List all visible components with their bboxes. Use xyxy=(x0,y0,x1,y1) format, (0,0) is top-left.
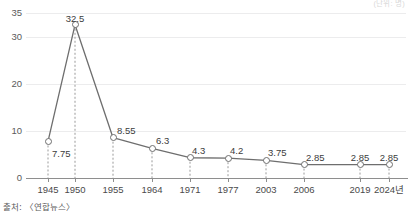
x-tick-label: 1964 xyxy=(141,185,162,195)
x-tick-mark xyxy=(360,178,361,182)
gridline xyxy=(26,37,406,38)
x-tick-mark xyxy=(75,178,76,182)
gridline xyxy=(26,131,406,132)
x-tick-mark xyxy=(304,178,305,182)
gridline xyxy=(26,84,406,85)
data-value-label: 2.85 xyxy=(380,153,399,163)
droplines xyxy=(0,0,411,190)
data-point-marker[interactable] xyxy=(149,145,156,152)
x-tick-label: 1977 xyxy=(217,185,238,195)
data-value-label: 3.75 xyxy=(268,148,287,158)
data-value-label: 2.85 xyxy=(351,153,370,163)
series-line xyxy=(0,0,411,190)
y-tick-label: 30 xyxy=(0,32,22,42)
x-tick-label: 2006 xyxy=(293,185,314,195)
y-tick-label: 10 xyxy=(0,126,22,136)
x-tick-label: 1945 xyxy=(37,185,58,195)
plot-area: 010203035 7.7532.58.556.34.34.23.752.852… xyxy=(0,0,411,190)
x-tick-label: 1955 xyxy=(102,185,123,195)
x-tick-mark xyxy=(113,178,114,182)
series-polyline xyxy=(48,25,389,165)
x-tick-mark xyxy=(228,178,229,182)
data-value-label: 8.55 xyxy=(117,126,136,136)
data-value-label: 32.5 xyxy=(66,14,85,24)
x-tick-mark xyxy=(389,178,390,182)
chart-figure: (단위: 명) 010203035 7.7532.58.556.34.34.23… xyxy=(0,0,411,215)
x-tick-label: 1971 xyxy=(179,185,200,195)
x-tick-mark xyxy=(266,178,267,182)
x-tick-mark xyxy=(190,178,191,182)
x-tick-label: 2003 xyxy=(255,185,276,195)
y-tick-label: 0 xyxy=(0,173,22,183)
y-tick-label: 35 xyxy=(0,8,22,18)
x-axis-line xyxy=(26,178,408,179)
data-point-marker[interactable] xyxy=(45,138,52,145)
y-tick-label: 20 xyxy=(0,79,22,89)
x-tick-label: 2019 xyxy=(349,185,370,195)
x-tick-mark xyxy=(48,178,49,182)
data-value-label: 7.75 xyxy=(52,149,71,159)
data-value-label: 4.2 xyxy=(230,146,243,156)
data-value-label: 6.3 xyxy=(156,136,169,146)
x-tick-label: 2024년 xyxy=(374,185,404,195)
source-note: 출처: 〈연합뉴스〉 xyxy=(3,200,75,212)
x-tick-label: 1950 xyxy=(64,185,85,195)
data-value-label: 4.3 xyxy=(192,146,205,156)
x-tick-mark xyxy=(152,178,153,182)
data-value-label: 2.85 xyxy=(306,153,325,163)
data-point-marker[interactable] xyxy=(110,134,117,141)
